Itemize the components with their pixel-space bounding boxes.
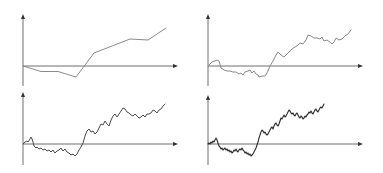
random-walk-path [23, 28, 166, 77]
x-axis-arrow-icon [173, 64, 178, 68]
random-walk-path [23, 104, 165, 156]
panel-bottom-left [21, 92, 178, 165]
random-walk-path [208, 104, 324, 156]
random-walk-path [208, 30, 351, 77]
y-axis-arrow-icon [21, 92, 25, 97]
y-axis-arrow-icon [206, 14, 210, 19]
y-axis-arrow-icon [206, 95, 210, 100]
panel-top-left [21, 14, 178, 86]
panel-top-right [206, 14, 363, 86]
x-axis-arrow-icon [358, 142, 363, 146]
four-panel-plot [0, 0, 383, 173]
random-walk-figure [0, 0, 383, 173]
x-axis-arrow-icon [358, 64, 363, 68]
x-axis-arrow-icon [173, 142, 178, 146]
panel-bottom-right [206, 95, 363, 165]
y-axis-arrow-icon [21, 14, 25, 19]
